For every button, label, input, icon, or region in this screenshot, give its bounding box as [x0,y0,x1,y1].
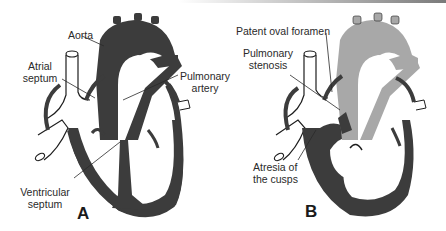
label-pulmonary-artery-line2: artery [175,82,235,94]
panel-letter-b: B [305,202,317,222]
panel-letter-a: A [77,204,89,224]
panel-b-heart [273,13,426,216]
label-atresia-line2: the cusps [253,173,298,185]
label-atrial-septum: Atrial septum [20,60,60,84]
label-pulmonary-stenosis-line2: stenosis [240,59,296,71]
label-patent-oval-foramen: Patent oval foramen [236,25,330,37]
label-ventricular-septum-line2: septum [14,198,76,210]
label-ventricular-septum: Ventricular septum [14,186,76,210]
label-pulmonary-artery-line1: Pulmonary [175,70,235,82]
label-atrial-septum-line2: septum [20,72,60,84]
label-atresia-line1: Atresia of [253,161,298,173]
label-atrial-septum-line1: Atrial [20,60,60,72]
label-pulmonary-stenosis: Pulmonary stenosis [240,47,296,71]
label-pulmonary-stenosis-line1: Pulmonary [240,47,296,59]
label-aorta: Aorta [68,29,93,41]
label-atresia-of-cusps: Atresia of the cusps [253,161,298,185]
label-ventricular-septum-line1: Ventricular [14,186,76,198]
label-pulmonary-artery: Pulmonary artery [175,70,235,94]
